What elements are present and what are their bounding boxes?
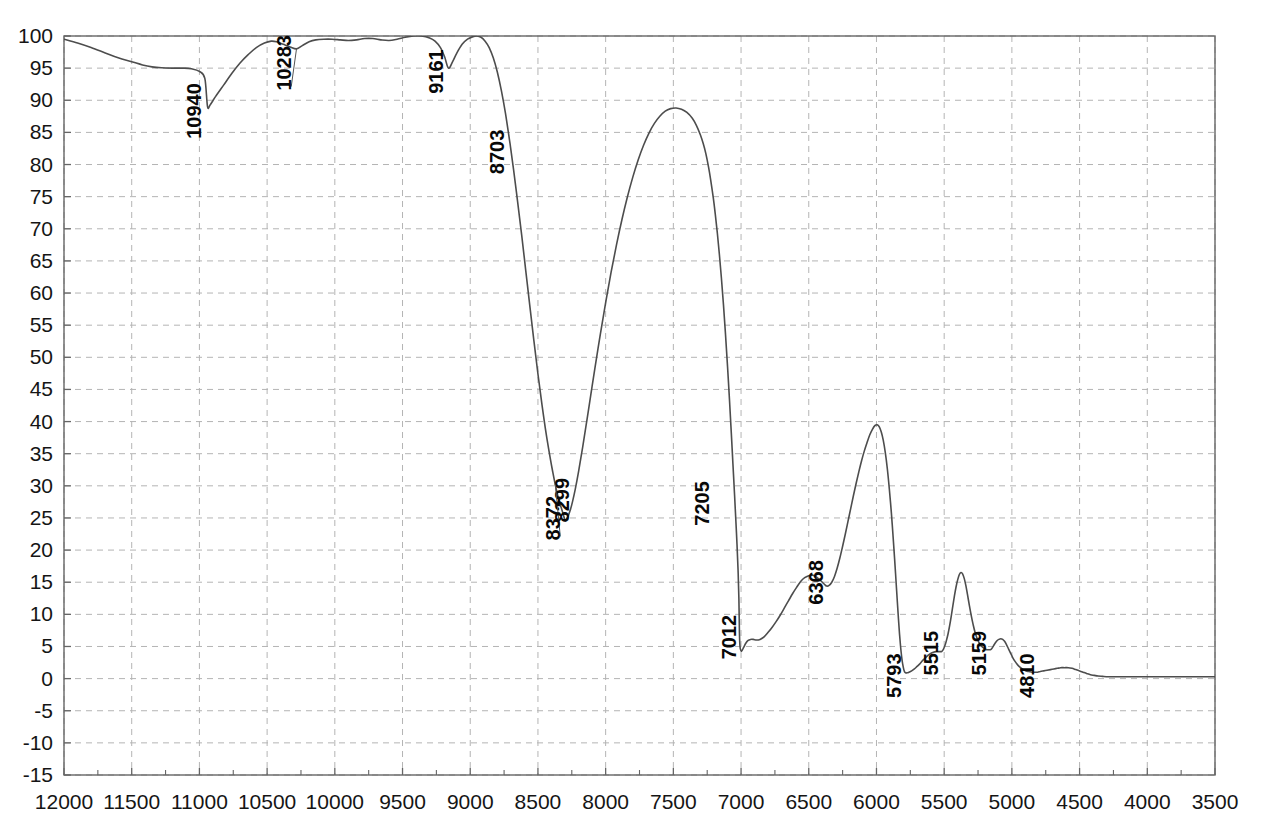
axis-ticks-layer [64, 36, 1215, 775]
grid-layer [64, 36, 1215, 775]
peak-label: 9161 [425, 49, 447, 94]
peak-label: 10940 [183, 83, 205, 139]
x-tick-label: 7500 [650, 790, 697, 813]
x-tick-label: 9500 [379, 790, 426, 813]
y-tick-label: 0 [41, 667, 53, 690]
spectrum-plot-svg: 1200011500110001050010000950090008500800… [0, 0, 1267, 839]
x-tick-label: 8500 [515, 790, 562, 813]
y-tick-label: 15 [30, 570, 53, 593]
y-tick-label: 50 [30, 345, 53, 368]
x-tick-label: 4500 [1056, 790, 1103, 813]
x-tick-label: 11000 [171, 790, 228, 813]
peak-label: 7205 [691, 481, 713, 526]
y-tick-label: 25 [30, 506, 53, 529]
y-tick-label: 65 [30, 249, 53, 272]
peak-label: 5159 [968, 631, 990, 675]
x-tick-label: 6000 [853, 790, 900, 813]
x-tick-label: 3500 [1192, 790, 1239, 813]
nir-spectrum-chart: 1200011500110001050010000950090008500800… [0, 0, 1267, 839]
peak-label: 10283 [273, 35, 295, 91]
x-tick-label: 9000 [447, 790, 494, 813]
peak-annotations-layer: 1094010283916187038299837272057012636857… [183, 35, 1037, 698]
y-tick-label: 35 [30, 442, 53, 465]
y-tick-label: 55 [30, 313, 53, 336]
x-tick-label: 12000 [35, 790, 93, 813]
peak-label: 8703 [486, 130, 508, 174]
y-tick-label: -15 [23, 763, 53, 786]
x-tick-label: 6500 [785, 790, 832, 813]
x-tick-label: 10500 [238, 790, 296, 813]
x-tick-label: 11500 [103, 790, 160, 813]
peak-label: 5515 [920, 631, 942, 676]
y-tick-label: 20 [30, 538, 53, 561]
y-tick-label: 95 [30, 56, 53, 79]
x-tick-label: 8000 [582, 790, 629, 813]
x-tick-label: 5000 [989, 790, 1036, 813]
x-axis-tick-labels: 1200011500110001050010000950090008500800… [35, 790, 1239, 813]
y-tick-label: 5 [41, 634, 53, 657]
peak-label: 7012 [718, 615, 740, 660]
y-tick-label: 100 [18, 24, 53, 47]
plot-frame-layer [64, 36, 1215, 775]
y-axis-tick-labels: 1009590858075706560555045403530252015105… [18, 24, 53, 786]
x-tick-label: 10000 [306, 790, 364, 813]
y-tick-label: 30 [30, 474, 53, 497]
y-tick-label: -10 [23, 731, 53, 754]
y-tick-label: 40 [30, 410, 53, 433]
y-tick-label: 85 [30, 120, 53, 143]
peak-label: 4810 [1016, 653, 1038, 698]
y-tick-label: 90 [30, 88, 53, 111]
peak-label: 5793 [883, 653, 905, 698]
y-tick-label: 70 [30, 217, 53, 240]
y-tick-label: -5 [34, 699, 53, 722]
peak-label: 8372 [542, 496, 564, 541]
x-tick-label: 7000 [718, 790, 765, 813]
y-tick-label: 80 [30, 153, 53, 176]
x-tick-label: 4000 [1124, 790, 1171, 813]
y-tick-label: 75 [30, 185, 53, 208]
peak-label: 6368 [805, 560, 827, 605]
y-tick-label: 60 [30, 281, 53, 304]
y-tick-label: 10 [30, 602, 53, 625]
x-tick-label: 5500 [921, 790, 968, 813]
y-tick-label: 45 [30, 377, 53, 400]
plot-frame [64, 36, 1215, 775]
